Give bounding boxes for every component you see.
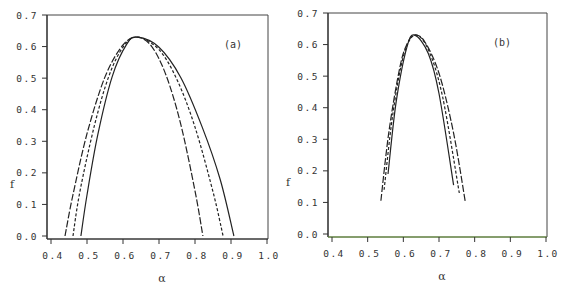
y-tick-label: 0.6 <box>16 41 38 52</box>
y-tick-label: 0.7 <box>16 10 38 21</box>
y-tick-label: 0.5 <box>297 71 319 82</box>
x-tick-label: 0.8 <box>466 248 488 259</box>
x-tick-label: 0.5 <box>359 248 381 259</box>
figure: 0.00.10.20.30.40.50.60.70.40.50.60.70.80… <box>0 0 563 291</box>
x-tick-label: 0.4 <box>42 250 64 261</box>
x-tick-label: 0.4 <box>323 248 345 259</box>
y-tick-label: 0.7 <box>297 8 319 19</box>
y-tick-label: 0.4 <box>297 102 319 113</box>
series-line-solid <box>81 37 234 236</box>
x-axis-label: α <box>158 272 166 285</box>
series-line-solid <box>388 35 454 185</box>
y-tick-label: 0.1 <box>16 199 38 210</box>
y-tick-label: 0.1 <box>297 197 319 208</box>
y-tick-label: 0.6 <box>297 39 319 50</box>
y-tick-label: 0.4 <box>16 104 38 115</box>
x-tick-label: 0.9 <box>222 250 244 261</box>
y-tick-label: 0.0 <box>297 229 319 240</box>
panel-a: 0.00.10.20.30.40.50.60.70.40.50.60.70.80… <box>10 10 280 286</box>
y-tick-label: 0.2 <box>16 167 38 178</box>
x-tick-label: 0.5 <box>78 250 100 261</box>
x-axis-label: α <box>438 270 446 283</box>
panel-label: (a) <box>224 39 242 50</box>
panel-label: (b) <box>493 37 511 48</box>
x-tick-label: 1.0 <box>258 250 280 261</box>
series-line-dash <box>73 37 223 236</box>
y-tick-label: 0.0 <box>16 231 38 242</box>
y-tick-label: 0.2 <box>297 165 319 176</box>
x-tick-label: 0.6 <box>394 248 416 259</box>
x-tick-label: 0.8 <box>186 250 208 261</box>
x-tick-label: 0.6 <box>114 250 136 261</box>
y-axis-label: f <box>10 178 15 191</box>
x-tick-label: 1.0 <box>537 248 559 259</box>
x-tick-label: 0.9 <box>501 248 523 259</box>
plot-frame <box>328 13 547 237</box>
y-axis-label: f <box>286 176 291 189</box>
y-tick-label: 0.3 <box>16 136 38 147</box>
x-tick-label: 0.7 <box>150 250 172 261</box>
y-tick-label: 0.5 <box>16 73 38 84</box>
panel-b: 0.00.10.20.30.40.50.60.70.40.50.60.70.80… <box>286 8 559 284</box>
series-line-dash <box>384 35 459 193</box>
y-tick-label: 0.3 <box>297 134 319 145</box>
x-tick-label: 0.7 <box>430 248 452 259</box>
